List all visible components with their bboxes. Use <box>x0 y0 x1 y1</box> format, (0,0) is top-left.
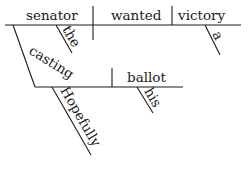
gerund-object-modifier-word: his <box>141 85 165 110</box>
verb-word: wanted <box>111 7 162 23</box>
subject-word: senator <box>26 7 78 23</box>
adverb-word: Hopefully <box>57 84 104 150</box>
subject-modifier-word: the <box>59 23 84 50</box>
object-word: victory <box>177 7 226 23</box>
gerund-object-word: ballot <box>127 69 166 85</box>
object-modifier-word: a <box>209 28 227 42</box>
sentence-diagram: senator wanted victory the a casting bal… <box>0 0 249 172</box>
